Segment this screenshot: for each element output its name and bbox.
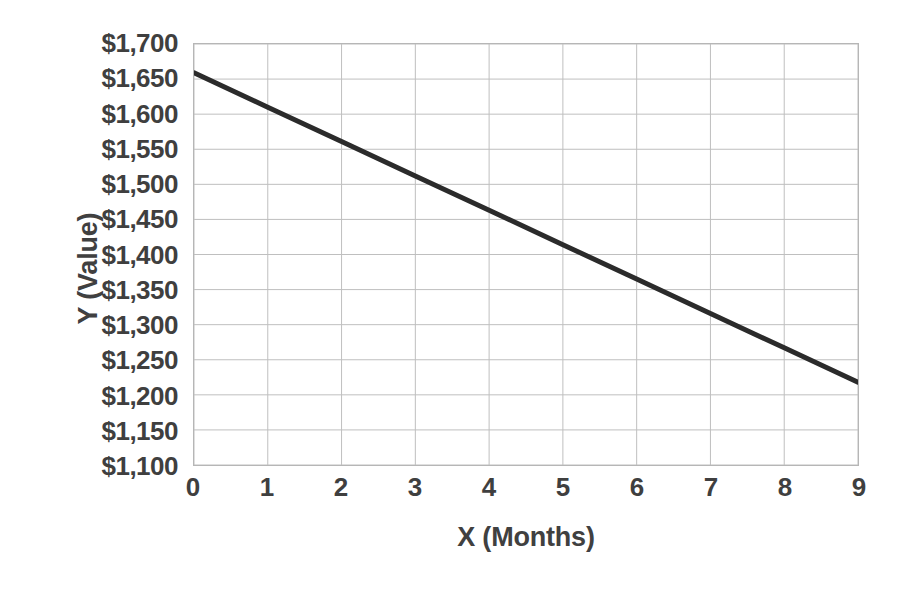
y-axis-tick-label: $1,450 — [62, 206, 178, 232]
x-axis-tick-labels: 0123456789 — [193, 474, 859, 514]
y-axis-tick-label: $1,400 — [62, 242, 178, 268]
x-axis-tick-label: 6 — [630, 474, 644, 500]
line-chart: Y (Value) $1,700$1,650$1,600$1,550$1,500… — [0, 0, 902, 593]
y-axis-tick-label: $1,350 — [62, 277, 178, 303]
y-axis-tick-label: $1,650 — [62, 65, 178, 91]
x-axis-tick-label: 2 — [334, 474, 348, 500]
y-axis-tick-label: $1,150 — [62, 418, 178, 444]
y-axis-tick-label: $1,600 — [62, 101, 178, 127]
y-axis-tick-label: $1,700 — [62, 30, 178, 56]
x-axis-tick-label: 8 — [778, 474, 792, 500]
x-axis-title: X (Months) — [193, 522, 859, 553]
y-axis-tick-label: $1,100 — [62, 453, 178, 479]
x-axis-tick-label: 1 — [260, 474, 274, 500]
y-axis-tick-label: $1,500 — [62, 171, 178, 197]
y-axis-tick-label: $1,550 — [62, 136, 178, 162]
gridlines — [194, 44, 858, 465]
x-axis-tick-label: 0 — [186, 474, 200, 500]
plot-area — [193, 43, 859, 466]
x-axis-tick-label: 7 — [704, 474, 718, 500]
y-axis-tick-label: $1,250 — [62, 347, 178, 373]
y-axis-tick-labels: $1,700$1,650$1,600$1,550$1,500$1,450$1,4… — [62, 43, 178, 466]
y-axis-tick-label: $1,200 — [62, 383, 178, 409]
x-axis-tick-label: 3 — [408, 474, 422, 500]
x-axis-tick-label: 9 — [852, 474, 866, 500]
x-axis-tick-label: 5 — [556, 474, 570, 500]
y-axis-tick-label: $1,300 — [62, 312, 178, 338]
x-axis-tick-label: 4 — [482, 474, 496, 500]
